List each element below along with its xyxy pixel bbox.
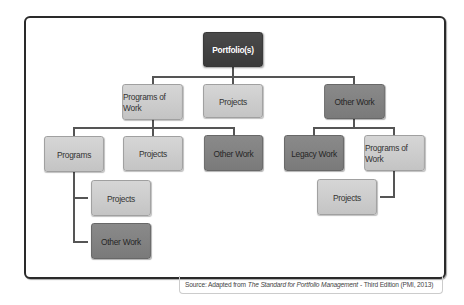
caption-suffix: - Third Edition (PMI, 2013) — [360, 281, 433, 288]
node-other-work-top: Other Work — [324, 84, 385, 119]
connector — [313, 127, 395, 129]
connector — [73, 241, 88, 243]
source-caption: Source: Adapted from The Standard for Po… — [179, 276, 443, 294]
node-other-work-mid: Other Work — [204, 135, 263, 171]
connector — [380, 196, 395, 198]
node-projects-under-programs: Projects — [91, 180, 151, 216]
connector — [232, 76, 234, 84]
node-other-work-under-programs: Other Work — [91, 223, 151, 259]
node-projects-top: Projects — [203, 84, 263, 118]
node-projects-under-programs-of-work-right: Projects — [317, 179, 377, 215]
connector — [152, 76, 355, 78]
node-legacy-work: Legacy Work — [284, 135, 344, 171]
node-portfolio: Portfolio(s) — [203, 32, 263, 67]
connector — [73, 127, 75, 136]
node-projects-mid-left: Projects — [123, 136, 183, 171]
node-programs-of-work-left: Programs of Work — [122, 84, 183, 120]
connector — [73, 197, 88, 199]
connector — [73, 172, 75, 242]
connector — [393, 171, 395, 198]
node-programs-of-work-right: Programs of Work — [364, 135, 425, 171]
caption-prefix: Source: Adapted from — [185, 281, 246, 288]
connector — [353, 76, 355, 84]
connector — [152, 127, 154, 136]
connector — [152, 76, 154, 84]
connector — [73, 127, 235, 129]
caption-title: The Standard for Portfolio Management — [248, 281, 358, 288]
node-programs: Programs — [44, 136, 104, 172]
